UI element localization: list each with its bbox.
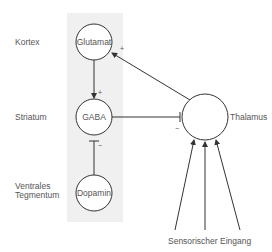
diagram-canvas: Kortex Striatum Ventrales Tegmentum + − … [0, 0, 272, 252]
node-dopamin: Dopamin [76, 175, 112, 211]
sensory-input-label: Sensorischer Eingang [168, 236, 251, 246]
region-label-vta-2: Tegmentum [15, 190, 59, 200]
edge-sensory-3 [216, 140, 240, 230]
node-glutamat: Glutamat [76, 24, 112, 60]
node-glutamat-label: Glutamat [77, 37, 112, 47]
sign-glutamat-gaba: + [98, 89, 102, 96]
sign-dopamin-gaba: − [98, 142, 102, 149]
edge-thalamus-glutamat [112, 53, 190, 100]
region-label-striatum: Striatum [15, 112, 47, 122]
node-thalamus-label: Thalamus [230, 112, 267, 122]
region-label-kortex: Kortex [15, 37, 40, 47]
sign-thalamus-glutamat: + [120, 45, 124, 52]
sign-gaba-thalamus: − [175, 125, 179, 132]
node-gaba-label: GABA [82, 112, 106, 122]
node-gaba: GABA [76, 99, 112, 135]
node-dopamin-label: Dopamin [77, 188, 111, 198]
node-thalamus [182, 94, 228, 140]
edge-sensory-1 [175, 140, 194, 230]
